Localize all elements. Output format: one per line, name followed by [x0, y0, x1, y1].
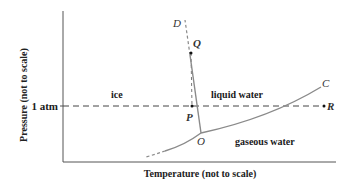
sublimation-curve: [165, 133, 201, 151]
point-q-marker: [190, 52, 193, 55]
region-ice-label: ice: [111, 89, 123, 100]
point-o-label: O: [197, 135, 205, 147]
one-atm-label: 1 atm: [31, 100, 58, 112]
sublimation-curve-extension: [146, 151, 165, 157]
point-d-label: D: [172, 17, 181, 29]
region-gas-label: gaseous water: [235, 136, 295, 147]
y-axis-label: Pressure (not to scale): [18, 48, 30, 142]
region-liquid-label: liquid water: [211, 89, 264, 100]
phase-diagram: D Q P O C R ice liquid water gaseous wat…: [0, 0, 355, 186]
point-p-marker: [191, 105, 194, 108]
fusion-curve-extension: [185, 20, 190, 55]
point-r-marker: [323, 105, 326, 108]
point-r-label: R: [326, 100, 334, 112]
x-axis-label: Temperature (not to scale): [144, 168, 256, 180]
point-q-label: Q: [193, 37, 201, 49]
point-p-label: P: [186, 111, 193, 123]
point-c-label: C: [322, 77, 330, 89]
